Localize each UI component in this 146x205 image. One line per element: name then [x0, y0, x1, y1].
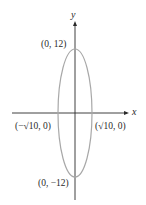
point-label-bottom: (0, −12) [38, 179, 69, 189]
x-axis-arrow-icon [124, 111, 129, 115]
x-axis [12, 111, 129, 115]
x-axis-label: x [132, 107, 136, 117]
point-label-top: (0, 12) [41, 40, 66, 50]
point-label-right: (√10, 0) [95, 122, 126, 132]
y-axis-label: y [71, 10, 75, 20]
point-label-left: (−√10, 0) [15, 122, 51, 132]
graph-canvas [0, 0, 146, 205]
y-axis-arrow-icon [73, 21, 77, 26]
y-axis [73, 21, 77, 200]
